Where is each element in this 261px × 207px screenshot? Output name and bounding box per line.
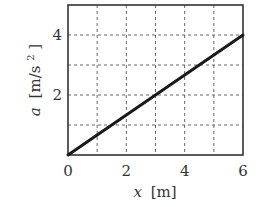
y-tick-4: 4 <box>52 26 62 44</box>
x-tick-2: 2 <box>122 162 132 180</box>
y-tick-labels: 2 4 <box>52 26 62 104</box>
x-tick-0: 0 <box>63 162 73 180</box>
x-tick-4: 4 <box>180 162 190 180</box>
y-axis-label: a [m/s 2 ] <box>20 44 44 116</box>
x-tick-labels: 0 2 4 6 <box>63 162 248 180</box>
grid-lines <box>68 5 243 155</box>
x-axis-label: x [m] <box>133 183 176 201</box>
y-tick-2: 2 <box>52 86 62 104</box>
x-tick-6: 6 <box>238 162 248 180</box>
chart: 0 2 4 6 2 4 x [m] a [m/s 2 ] <box>0 0 261 207</box>
